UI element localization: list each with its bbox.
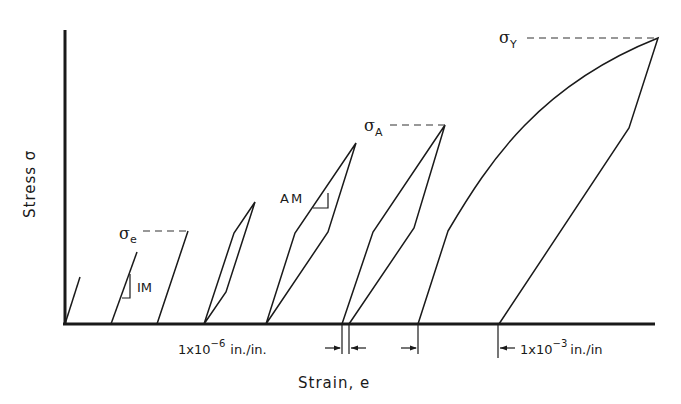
sigma-a-label: σA — [364, 116, 383, 139]
y-axis-label: Stress σ — [21, 150, 39, 218]
im-curve: IM — [111, 252, 152, 324]
anelastic-loop-small — [204, 202, 255, 324]
stress-strain-diagram: IM σe AM σA σY — [0, 0, 681, 404]
am-label: AM — [280, 191, 304, 206]
im-label: IM — [137, 280, 152, 295]
im-slope-triangle — [122, 274, 130, 298]
x-axis-label: Strain, e — [298, 374, 370, 392]
sigma-e-label: σe — [119, 224, 137, 246]
sigma-y-loop: σY — [418, 28, 658, 324]
am-loop: AM — [266, 143, 356, 324]
initial-elastic-line — [65, 277, 80, 324]
dimension-markers — [325, 324, 515, 358]
sigma-a-loop: σA — [342, 116, 445, 324]
sigma-y-label: σY — [499, 28, 517, 51]
small-strain-scale-label: 1x10−6in./in. — [178, 338, 267, 357]
large-strain-scale-label: 1x10−3in./in — [520, 338, 602, 357]
